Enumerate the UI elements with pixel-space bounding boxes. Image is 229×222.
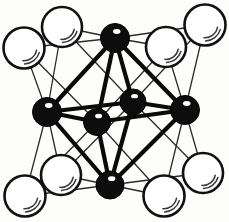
ligand-top-left-back [42,7,82,47]
metal-sphere-body [33,98,62,127]
metal-sphere-body [171,96,200,125]
metal-highlight-dot [108,176,115,181]
metal-bottom [96,171,124,199]
ligand-sphere-outline [42,7,82,47]
structure-figure: Octahedral M6X8 cluster Ball-and-stick s… [0,0,229,222]
ligand-top-right-back [185,5,226,46]
ligand-sphere-outline [185,5,226,46]
ligand-bottom-right-back [183,153,223,193]
ligand-top-right-front [146,27,186,67]
ligand-sphere-outline [146,27,186,67]
ligand-sphere-outline [5,176,46,217]
ligand-sphere-outline [4,28,45,69]
ligand-bottom-left-back [41,155,81,195]
metal-highlight-dot [95,114,102,119]
metal-right [171,96,200,125]
metal-highlight-dot [45,103,53,108]
ligand-sphere-outline [183,153,223,193]
metal-sphere-body [84,109,111,136]
metal-top [101,24,130,53]
metal-sphere-body [120,89,146,115]
metal-sphere-body [96,171,124,199]
metal-sphere-body [101,24,130,53]
metal-front-center [84,109,111,136]
cluster-diagram [0,0,229,222]
ligand-sphere-outline [41,155,81,195]
metal-left [33,98,62,127]
metal-highlight-dot [113,29,121,34]
metal-back-center [120,89,146,115]
metal-highlight-dot [131,94,138,98]
ligand-sphere-outline [144,176,185,217]
ligand-top-left-front [4,28,45,69]
ligand-bottom-left-front [5,176,46,217]
metal-highlight-dot [183,101,191,106]
ligand-bottom-right-front [144,176,185,217]
